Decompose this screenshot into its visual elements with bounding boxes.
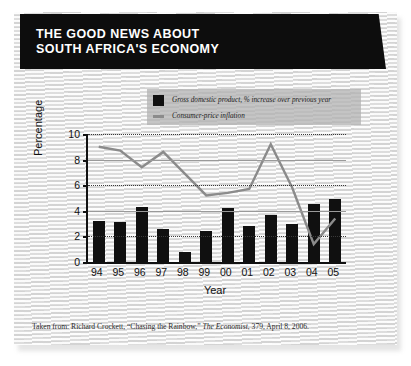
gridline — [88, 211, 346, 212]
x-tick-label: 03 — [281, 266, 299, 278]
legend-label-gdp: Gross domestic product, % increase over … — [172, 96, 331, 104]
y-tick-label: 6 — [58, 179, 80, 191]
plot-area — [86, 134, 346, 264]
legend-item-inflation: Consumer-price inflation — [153, 109, 361, 123]
y-axis-tickmark — [83, 262, 88, 264]
chart-legend: Gross domestic product, % increase over … — [147, 89, 361, 125]
y-tick-label: 0 — [58, 256, 80, 268]
chart: Percentage 1086420 949596979899000102030… — [38, 134, 363, 284]
y-axis-tickmark — [83, 211, 88, 213]
title-line-2: SOUTH AFRICA'S ECONOMY — [36, 42, 386, 57]
y-tick-label: 4 — [58, 205, 80, 217]
title-line-1: THE GOOD NEWS ABOUT — [36, 27, 386, 42]
gridline — [88, 185, 346, 186]
y-axis-tickmark — [83, 134, 88, 136]
x-tick-label: 94 — [88, 266, 106, 278]
y-axis-tickmark — [83, 236, 88, 238]
x-tick-label: 96 — [131, 266, 149, 278]
gridline — [88, 160, 346, 161]
gridline — [88, 236, 346, 237]
x-tick-label: 05 — [324, 266, 342, 278]
legend-item-gdp: Gross domestic product, % increase over … — [153, 93, 361, 107]
y-tick-label: 10 — [58, 128, 80, 140]
x-tick-label: 01 — [238, 266, 256, 278]
legend-label-inflation: Consumer-price inflation — [172, 112, 245, 120]
x-tick-label: 95 — [109, 266, 127, 278]
x-axis-ticks: 949596979899000102030405 — [86, 266, 344, 278]
title-banner-text: THE GOOD NEWS ABOUT SOUTH AFRICA'S ECONO… — [20, 14, 386, 69]
black-square-icon — [153, 95, 164, 106]
y-axis-tickmark — [83, 185, 88, 187]
y-tick-label: 2 — [58, 230, 80, 242]
y-axis-ticks: 1086420 — [58, 134, 80, 262]
inflation-line-series — [88, 134, 346, 262]
caption-source: The Economist — [202, 322, 247, 331]
figure-root: THE GOOD NEWS ABOUT SOUTH AFRICA'S ECONO… — [0, 0, 411, 366]
caption-suffix: , 379, April 8, 2006. — [248, 322, 309, 331]
x-tick-label: 00 — [217, 266, 235, 278]
x-tick-label: 99 — [195, 266, 213, 278]
x-axis-label: Year — [86, 284, 344, 296]
y-tick-label: 8 — [58, 154, 80, 166]
x-tick-label: 98 — [174, 266, 192, 278]
figure-caption: Taken from: Richard Crockett, “Chasing t… — [32, 322, 382, 331]
gray-dash-icon — [153, 115, 164, 118]
x-tick-label: 02 — [260, 266, 278, 278]
y-axis-tickmark — [83, 160, 88, 162]
x-tick-label: 04 — [303, 266, 321, 278]
gridline — [88, 134, 346, 135]
y-axis-label: Percentage — [32, 100, 44, 156]
x-tick-label: 97 — [152, 266, 170, 278]
caption-prefix: Taken from: Richard Crockett, “Chasing t… — [32, 322, 202, 331]
